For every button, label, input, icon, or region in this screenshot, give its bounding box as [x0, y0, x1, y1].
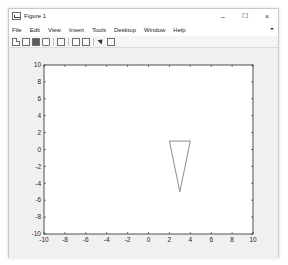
title-bar[interactable]: Figure 1 – ☐ × [9, 9, 278, 23]
minimize-button[interactable]: – [212, 9, 234, 23]
print-icon[interactable] [42, 38, 50, 46]
y-tick-label: -2 [35, 163, 41, 170]
x-tick-label: 8 [230, 236, 234, 243]
y-tick-label: 2 [37, 129, 41, 136]
x-tick-label: 6 [209, 236, 213, 243]
plot-axes[interactable]: -10-8-6-4-20246810-10-8-6-4-20246810 [9, 49, 280, 258]
close-button[interactable]: × [256, 9, 278, 23]
insert-colorbar-icon[interactable] [82, 38, 90, 46]
y-tick-label: 0 [37, 146, 41, 153]
y-tick-label: 8 [37, 78, 41, 85]
menu-view[interactable]: View [48, 27, 61, 33]
menu-help[interactable]: Help [173, 27, 185, 33]
menu-tools[interactable]: Tools [92, 27, 106, 33]
y-tick-label: -4 [35, 180, 41, 187]
menu-edit[interactable]: Edit [30, 27, 40, 33]
open-file-icon[interactable] [22, 38, 30, 46]
menu-window[interactable]: Window [144, 27, 165, 33]
y-tick-label: -8 [35, 213, 41, 220]
y-tick-label: -10 [32, 230, 42, 237]
insert-legend-icon[interactable] [107, 38, 115, 46]
menu-file[interactable]: File [12, 27, 22, 33]
window-controls: – ☐ × [212, 9, 278, 23]
figure-canvas: -10-8-6-4-20246810-10-8-6-4-20246810 [9, 49, 278, 258]
menu-overflow-arrow-icon[interactable] [270, 28, 274, 30]
y-tick-label: 10 [34, 61, 42, 68]
link-plot-icon[interactable] [72, 38, 80, 46]
x-tick-label: 10 [249, 236, 257, 243]
menu-bar: File Edit View Insert Tools Desktop Wind… [9, 23, 278, 36]
y-tick-label: -6 [35, 196, 41, 203]
x-tick-label: -6 [83, 236, 89, 243]
toolbar-separator [53, 38, 54, 46]
x-tick-label: -8 [62, 236, 68, 243]
x-tick-label: -4 [104, 236, 110, 243]
matlab-figure-icon [12, 12, 21, 20]
menu-insert[interactable]: Insert [69, 27, 84, 33]
print-preview-icon[interactable] [57, 38, 65, 46]
new-figure-icon[interactable] [12, 38, 20, 46]
window-title: Figure 1 [24, 13, 46, 19]
figure-toolbar [9, 36, 278, 48]
save-icon[interactable] [32, 38, 40, 46]
figure-window: Figure 1 – ☐ × File Edit View Insert Too… [8, 8, 279, 258]
edit-plot-arrow-icon[interactable] [97, 38, 105, 46]
toolbar-separator [93, 38, 94, 46]
y-tick-label: 4 [37, 112, 41, 119]
axes-background [44, 65, 253, 234]
x-tick-label: -2 [125, 236, 131, 243]
x-tick-label: 4 [188, 236, 192, 243]
y-tick-label: 6 [37, 95, 41, 102]
x-tick-label: 2 [168, 236, 172, 243]
menu-desktop[interactable]: Desktop [114, 27, 136, 33]
maximize-button[interactable]: ☐ [234, 9, 256, 23]
toolbar-separator [68, 38, 69, 46]
x-tick-label: 0 [147, 236, 151, 243]
